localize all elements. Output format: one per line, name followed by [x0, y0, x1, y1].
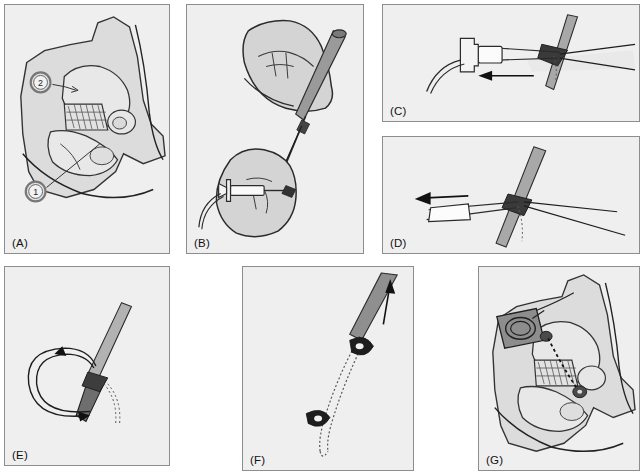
panel-b-illustration	[187, 5, 363, 253]
anatomy-drawing-g	[493, 275, 635, 451]
instrument-barrel-d	[429, 204, 471, 222]
suture-limb-lower-d	[524, 206, 625, 235]
panel-label-d: (D)	[390, 238, 407, 250]
figure-root: 2 1 (A)	[0, 0, 644, 475]
tubing-c	[427, 60, 461, 91]
cannula-barrel-c	[478, 46, 502, 63]
panel-f-illustration	[243, 267, 413, 470]
panel-c: (C)	[382, 4, 640, 122]
panel-d-illustration	[383, 137, 639, 253]
knot-proximal-g	[540, 331, 552, 341]
cannula-hub-c	[460, 38, 478, 71]
suture-loop-end-f	[320, 451, 328, 456]
panel-f: (F)	[242, 266, 414, 471]
panel-label-f: (F)	[250, 455, 265, 467]
obturator-foramen-g	[560, 403, 584, 421]
panel-e-illustration	[5, 267, 169, 465]
instrument-shaft-e	[86, 303, 131, 384]
direction-arrow-c	[478, 71, 534, 81]
panel-b: (B)	[186, 4, 364, 254]
panel-label-b: (B)	[194, 238, 210, 250]
knot-distal-g	[573, 386, 587, 398]
panel-label-g: (G)	[486, 455, 503, 467]
panel-a: 2 1 (A)	[4, 4, 170, 254]
direction-arrow-d	[415, 192, 469, 205]
panel-a-illustration: 2 1	[5, 5, 169, 253]
trocar-hub	[332, 30, 346, 38]
callout-number-1: 1	[33, 187, 38, 197]
tubing-edge-c	[431, 64, 465, 93]
panel-label-a: (A)	[12, 238, 28, 250]
femoral-head	[113, 117, 127, 129]
panel-e: (E)	[4, 266, 170, 466]
panel-c-illustration	[383, 5, 639, 121]
panel-label-e: (E)	[12, 450, 28, 462]
panel-d: (D)	[382, 136, 640, 254]
panel-g: (G)	[478, 266, 640, 471]
syringe-flange	[227, 180, 231, 202]
panel-g-illustration	[479, 267, 639, 470]
anchor-device-g	[497, 309, 544, 349]
panel-label-c: (C)	[390, 106, 407, 118]
crimp-upper-f	[350, 337, 374, 355]
syringe-barrel	[231, 186, 265, 196]
suture-dotted-e	[104, 384, 116, 424]
anatomy-drawing-a	[21, 17, 165, 198]
needle-cutting-tip-d	[502, 194, 532, 216]
callout-number-2: 2	[38, 78, 43, 88]
